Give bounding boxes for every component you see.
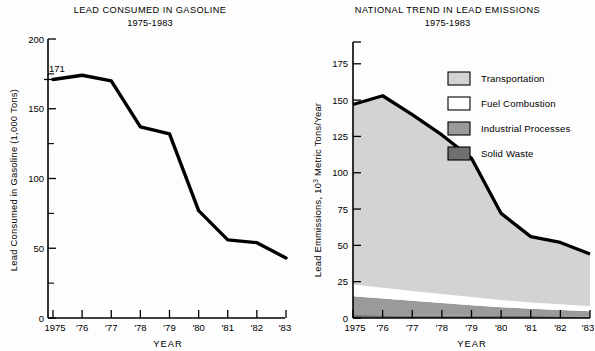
chart-panel-lead-emissions: NATIONAL TREND IN LEAD EMISSIONS 1975-19… bbox=[300, 0, 595, 351]
legend-swatch-fuel-combustion bbox=[448, 97, 470, 110]
x-axis-label-left: YEAR bbox=[153, 338, 183, 349]
y-tick-label: 75 bbox=[337, 204, 348, 215]
y-tick-label: 100 bbox=[28, 173, 44, 184]
y-tick-label: 150 bbox=[332, 95, 348, 106]
x-tick-label: '76 bbox=[76, 322, 88, 333]
y-tick-label: 25 bbox=[337, 276, 348, 287]
y-tick-label: 150 bbox=[28, 103, 44, 114]
annotation-171: 171 bbox=[49, 63, 65, 74]
y-tick-label: 50 bbox=[337, 240, 348, 251]
x-tick-label: '81 bbox=[525, 322, 537, 333]
x-tick-label: '76 bbox=[376, 322, 388, 333]
line-chart-lead-consumed: Lead Consumed in Gasoline (1,000 Tons) bbox=[0, 0, 300, 351]
y-axis-label-left: Lead Consumed in Gasoline (1,000 Tons) bbox=[8, 89, 19, 271]
y-tick-label: 125 bbox=[332, 131, 348, 142]
x-tick-label: '77 bbox=[406, 322, 418, 333]
figure-canvas: LEAD CONSUMED IN GASOLINE 1975-1983 Lead… bbox=[0, 0, 595, 351]
legend-label-fuel-combustion: Fuel Combustion bbox=[481, 98, 556, 109]
legend-label-transportation: Transportation bbox=[481, 73, 545, 84]
x-tick-label: 1975 bbox=[44, 322, 65, 333]
x-tick-label: '79 bbox=[163, 322, 175, 333]
x-tick-label: '83 bbox=[582, 322, 594, 333]
x-tick-label: '82 bbox=[251, 322, 263, 333]
y-tick-labels-right: 0255075100125150175 bbox=[332, 58, 348, 323]
data-series-lead-consumed bbox=[53, 75, 286, 258]
chart-panel-lead-consumed: LEAD CONSUMED IN GASOLINE 1975-1983 Lead… bbox=[0, 0, 300, 351]
stacked-area-chart-lead-emissions: Lead Emmissions, 103 Metric Tons/Year 02… bbox=[300, 0, 595, 351]
legend: TransportationFuel CombustionIndustrial … bbox=[448, 72, 570, 160]
y-tick-label: 100 bbox=[332, 167, 348, 178]
legend-label-industrial-processes: Industrial Processes bbox=[481, 123, 570, 134]
x-tick-label: '80 bbox=[192, 322, 204, 333]
x-tick-label: '80 bbox=[495, 322, 507, 333]
x-tick-label: '78 bbox=[134, 322, 146, 333]
legend-swatch-transportation bbox=[448, 72, 470, 85]
y-axis-label-post: Metric Tons/Year bbox=[312, 103, 323, 179]
legend-label-solid-waste: Solid Waste bbox=[481, 148, 533, 159]
x-axis-label-right: YEAR bbox=[457, 338, 487, 349]
x-tick-label: '81 bbox=[222, 322, 234, 333]
x-tick-label: 1975 bbox=[344, 322, 365, 333]
y-tick-label: 200 bbox=[28, 34, 44, 45]
y-tick-label: 50 bbox=[33, 243, 44, 254]
y-tick-label: 0 bbox=[39, 313, 44, 324]
x-tick-label: '77 bbox=[105, 322, 117, 333]
x-tick-label: '78 bbox=[436, 322, 448, 333]
y-tick-labels-left: 0 50 100 150 200 bbox=[28, 34, 44, 324]
y-tick-label: 175 bbox=[332, 58, 348, 69]
x-tick-label: '79 bbox=[465, 322, 477, 333]
y-axis-label-right: Lead Emmissions, 103 Metric Tons/Year bbox=[312, 103, 323, 277]
x-ticks-left bbox=[53, 310, 286, 318]
legend-swatch-solid-waste bbox=[448, 147, 470, 160]
x-tick-labels-right: 1975'76'77'78'79'80'81'82'83 bbox=[344, 322, 594, 333]
x-tick-label: '82 bbox=[554, 322, 566, 333]
x-tick-labels-left: 1975 '76 '77 '78 '79 '80 '81 '82 '83 bbox=[44, 322, 291, 333]
y-axis-label-pre: Lead Emmissions, 10 bbox=[312, 183, 323, 277]
x-tick-label: '83 bbox=[279, 322, 291, 333]
legend-swatch-industrial-processes bbox=[448, 122, 470, 135]
